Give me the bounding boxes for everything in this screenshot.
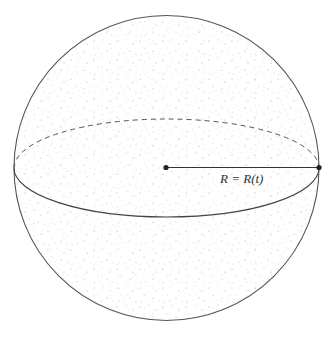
surface-point — [316, 165, 321, 170]
sphere-diagram: R = R(t) — [0, 0, 333, 339]
center-point — [163, 165, 168, 170]
radius-label: R = R(t) — [219, 171, 263, 186]
